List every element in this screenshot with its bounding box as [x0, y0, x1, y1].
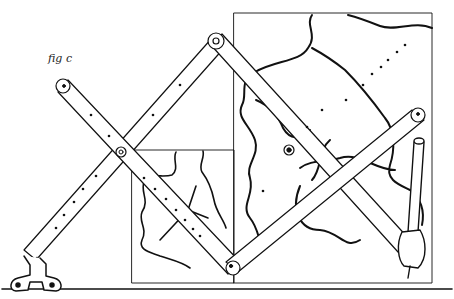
top-pivot [208, 33, 224, 49]
bottom-hinge [226, 261, 240, 275]
pantograph-diagram [0, 0, 454, 299]
anchor-clamp [11, 256, 61, 291]
left-cross-pivot [116, 147, 126, 157]
